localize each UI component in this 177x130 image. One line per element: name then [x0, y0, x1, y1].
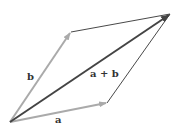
diagram-canvas: b a + b a — [0, 0, 177, 130]
edge-a-translated — [71, 14, 170, 32]
vector-diagram: b a + b a — [0, 0, 177, 130]
vector-b-arrow — [10, 33, 70, 122]
label-b: b — [27, 71, 34, 82]
label-a: a — [55, 114, 62, 125]
edge-b-translated — [107, 14, 170, 103]
label-sum: a + b — [90, 68, 119, 79]
